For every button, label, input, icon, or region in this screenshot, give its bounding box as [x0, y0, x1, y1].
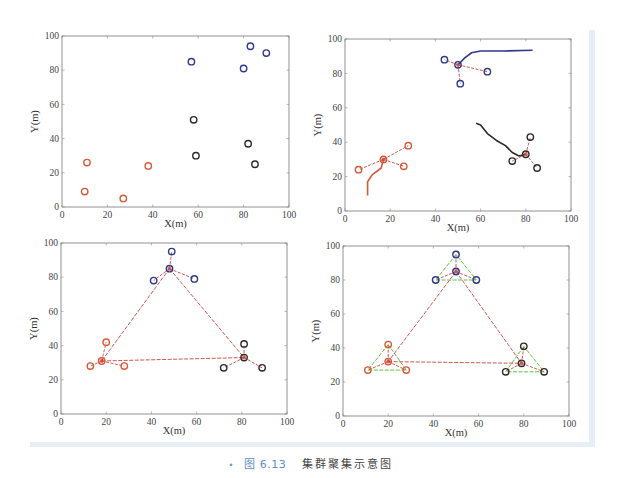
- y-tick-label: 40: [331, 343, 341, 353]
- x-tick-label: 20: [383, 419, 393, 429]
- caption-bullet: •: [228, 460, 235, 470]
- figure-title: 集群聚集示意图: [302, 458, 393, 471]
- y-tick-label: 80: [331, 275, 341, 285]
- y-axis-label: Y(m): [310, 319, 322, 342]
- cluster-center-fill: [520, 361, 524, 365]
- x-tick-label: 100: [562, 419, 577, 429]
- figure-number: 图 6.13: [244, 458, 286, 471]
- cluster-center-fill: [454, 270, 458, 274]
- x-tick-label: 40: [429, 419, 439, 429]
- y-tick-label: 100: [326, 241, 341, 251]
- y-tick-label: 0: [335, 411, 340, 421]
- center-link: [388, 362, 521, 364]
- center-link: [456, 272, 522, 364]
- x-tick-label: 60: [474, 419, 484, 429]
- x-tick-label: 0: [341, 419, 346, 429]
- chart-panel-formation: 020406080100020406080100X(m)Y(m): [0, 0, 621, 478]
- formation-triangle: [506, 346, 544, 372]
- figure-caption: • 图 6.13 集群聚集示意图: [0, 455, 621, 471]
- x-tick-label: 80: [519, 419, 529, 429]
- center-link: [388, 272, 456, 362]
- formation-triangle: [368, 345, 406, 371]
- cluster-center-fill: [386, 360, 390, 364]
- y-tick-label: 60: [331, 309, 341, 319]
- x-axis-label: X(m): [445, 427, 468, 439]
- y-tick-label: 20: [331, 377, 341, 387]
